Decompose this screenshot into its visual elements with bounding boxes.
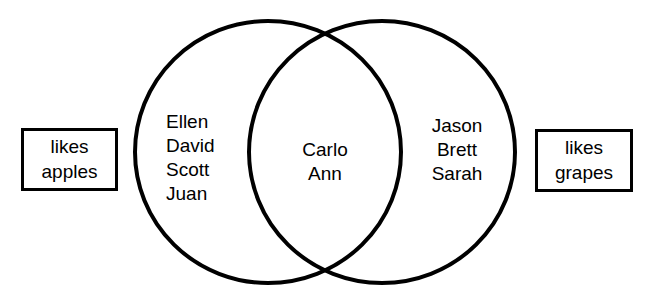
intersection-name-list: Carlo Ann [271, 138, 379, 186]
list-item: Sarah [411, 162, 503, 186]
list-item: Jason [411, 114, 503, 138]
list-item: David [166, 134, 215, 158]
right-category-label-line-2: grapes [555, 161, 613, 185]
list-item: Ann [271, 162, 379, 186]
list-item: Brett [411, 138, 503, 162]
right-category-label-box: likes grapes [535, 129, 633, 192]
list-item: Ellen [166, 110, 215, 134]
left-category-label-line-2: apples [42, 160, 98, 184]
venn-diagram-canvas: likes apples likes grapes Ellen David Sc… [0, 0, 648, 307]
left-category-label-box: likes apples [21, 128, 118, 191]
left-category-label-line-1: likes [50, 135, 88, 159]
right-only-name-list: Jason Brett Sarah [411, 114, 503, 186]
list-item: Carlo [271, 138, 379, 162]
left-only-name-list: Ellen David Scott Juan [166, 110, 215, 206]
list-item: Juan [166, 182, 215, 206]
right-category-label-line-1: likes [565, 136, 603, 160]
list-item: Scott [166, 158, 215, 182]
